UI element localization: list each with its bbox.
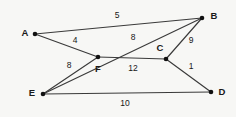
edge-weight-cd: 1	[189, 61, 194, 71]
edges-layer	[35, 18, 211, 94]
vertex-label-c: C	[157, 42, 164, 53]
vertex-label-b: B	[211, 10, 218, 21]
edge-weight-cb: 9	[189, 35, 194, 45]
edge-weight-eb: 8	[131, 32, 136, 42]
graph-edge-ab	[35, 18, 202, 34]
graph-canvas: 5488129110 ABCDEF	[0, 0, 236, 117]
graph-vertex-c	[164, 57, 169, 62]
edge-weight-af: 4	[73, 35, 78, 45]
vertex-label-d: D	[219, 86, 226, 97]
graph-vertex-d	[209, 90, 214, 95]
vertex-labels-layer: ABCDEF	[22, 10, 226, 98]
graph-diagram: 5488129110 ABCDEF	[0, 0, 236, 117]
graph-edge-af	[35, 34, 98, 57]
vertex-label-f: F	[95, 63, 101, 74]
graph-edge-cb	[166, 18, 202, 59]
graph-vertex-b	[200, 16, 205, 21]
graph-vertex-a	[33, 32, 38, 37]
vertex-label-e: E	[29, 87, 35, 98]
vertex-label-a: A	[22, 27, 29, 38]
graph-vertex-e	[41, 92, 46, 97]
graph-edge-fc	[98, 57, 166, 59]
edge-weight-ef: 8	[67, 60, 72, 70]
edge-weight-ab: 5	[115, 10, 120, 20]
graph-edge-eb	[43, 18, 202, 94]
graph-vertex-f	[96, 55, 101, 60]
graph-edge-ed	[43, 92, 211, 94]
edge-weight-fc: 12	[128, 63, 138, 73]
edge-weight-ed: 10	[120, 98, 130, 108]
